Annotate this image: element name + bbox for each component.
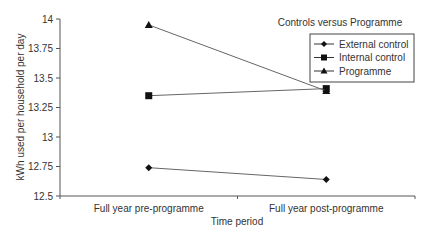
marker-square bbox=[145, 92, 152, 99]
legend: External controlInternal controlProgramm… bbox=[310, 34, 414, 82]
series-line bbox=[149, 168, 327, 180]
y-tick-label: 13.25 bbox=[28, 102, 53, 113]
marker-square bbox=[321, 55, 327, 61]
legend-label: Internal control bbox=[339, 52, 405, 63]
legend-title: Controls versus Programme bbox=[278, 17, 403, 28]
y-tick-label: 13.5 bbox=[34, 73, 54, 84]
marker-diamond bbox=[323, 176, 330, 183]
y-tick-label: 12.75 bbox=[28, 161, 53, 172]
marker-triangle bbox=[145, 21, 153, 28]
legend-label: External control bbox=[339, 39, 408, 50]
x-tick-label: Full year pre-programme bbox=[94, 203, 204, 214]
y-tick-label: 13.75 bbox=[28, 43, 53, 54]
y-axis-label: kWh used per household per day bbox=[15, 34, 26, 181]
y-tick-label: 13 bbox=[42, 132, 54, 143]
marker-diamond bbox=[145, 164, 152, 171]
series-layer bbox=[145, 21, 331, 183]
x-tick-label: Full year post-programme bbox=[269, 203, 384, 214]
chart: 12.512.751313.2513.513.7514Full year pre… bbox=[0, 0, 429, 241]
series-line bbox=[149, 25, 327, 91]
y-tick-label: 12.5 bbox=[34, 191, 54, 202]
y-tick-label: 14 bbox=[42, 14, 54, 25]
series-line bbox=[149, 89, 327, 96]
legend-label: Programme bbox=[339, 66, 392, 77]
x-axis-label: Time period bbox=[211, 216, 263, 227]
